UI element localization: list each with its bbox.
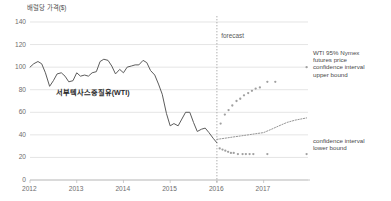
x-tick-label-2014: 2014 bbox=[115, 185, 130, 192]
series-dot-2-4 bbox=[230, 152, 232, 154]
series-dot-1-7 bbox=[247, 92, 249, 94]
y-tick-label-40: 40 bbox=[4, 131, 26, 138]
y-tick-label-60: 60 bbox=[4, 108, 26, 115]
x-tick-label-2015: 2015 bbox=[162, 185, 177, 192]
series-dot-1-1 bbox=[224, 113, 226, 115]
series-dot-1-13 bbox=[305, 66, 307, 68]
y-tick-label-80: 80 bbox=[4, 86, 26, 93]
series-dot-1-12 bbox=[274, 81, 276, 83]
upper-bound-label: WTI 95% Nymex futures price confidence i… bbox=[313, 49, 365, 79]
series-dot-2-3 bbox=[227, 151, 229, 153]
series-dot-1-0 bbox=[219, 122, 221, 124]
series-dot-1-5 bbox=[239, 98, 241, 100]
series-dot-2-2 bbox=[224, 150, 226, 152]
series-dot-1-2 bbox=[227, 109, 229, 111]
series-dot-2-11 bbox=[266, 153, 268, 155]
x-tick-label-2012: 2012 bbox=[22, 185, 37, 192]
series-dot-2-10 bbox=[252, 153, 254, 155]
series-dot-2-12 bbox=[305, 153, 307, 155]
series-dot-2-9 bbox=[248, 153, 250, 155]
forecast-divider-label: forecast bbox=[221, 32, 244, 39]
x-tick-label-2017: 2017 bbox=[256, 185, 271, 192]
series-dot-2-6 bbox=[237, 153, 239, 155]
series-dot-2-0 bbox=[219, 147, 221, 149]
series-dot-1-6 bbox=[243, 94, 245, 96]
series-dot-1-8 bbox=[251, 90, 253, 92]
series-dot-1-10 bbox=[259, 86, 261, 88]
series-dot-1-9 bbox=[255, 87, 257, 89]
y-tick-label-120: 120 bbox=[4, 41, 26, 48]
series-line-3 bbox=[217, 118, 307, 139]
lower-bound-label: confidence interval lower bound bbox=[313, 137, 365, 152]
series-line-0 bbox=[30, 59, 217, 143]
series-dot-1-3 bbox=[231, 104, 233, 106]
x-tick-label-2013: 2013 bbox=[69, 185, 84, 192]
series-dot-2-5 bbox=[233, 152, 235, 154]
y-tick-label-0: 0 bbox=[4, 176, 26, 183]
series-dot-1-11 bbox=[266, 81, 268, 83]
x-tick-label-2016: 2016 bbox=[209, 185, 224, 192]
chart-plot-area bbox=[0, 0, 391, 201]
y-tick-label-20: 20 bbox=[4, 153, 26, 160]
series-dot-2-1 bbox=[221, 148, 223, 150]
wti-series-label: 서부텍사스중질유(WTI) bbox=[56, 87, 130, 97]
y-tick-label-140: 140 bbox=[4, 18, 26, 25]
chart-container: 배럴당 가격($) 020406080100120140201220132014… bbox=[0, 0, 391, 201]
series-dot-2-7 bbox=[241, 153, 243, 155]
y-tick-label-100: 100 bbox=[4, 63, 26, 70]
series-dot-2-8 bbox=[245, 153, 247, 155]
series-dot-1-4 bbox=[235, 100, 237, 102]
